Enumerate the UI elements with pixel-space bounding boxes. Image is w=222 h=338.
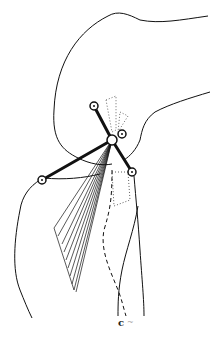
femur-lower-outline xyxy=(124,92,210,160)
tibia-inner-outline xyxy=(103,170,126,316)
muscle-fan xyxy=(54,140,112,292)
pivot-center xyxy=(107,135,117,145)
dotted-cruciate-2 xyxy=(118,112,128,132)
figure-mark: ~ xyxy=(127,318,134,327)
femur-outline xyxy=(54,13,208,165)
figure-label: c xyxy=(118,317,124,328)
diagram-canvas xyxy=(0,0,222,338)
lever-bars xyxy=(42,106,132,180)
fibula-outline xyxy=(134,176,144,316)
dotted-cruciate xyxy=(106,96,116,132)
tibia-left-outline xyxy=(15,180,40,318)
dotted-ligament xyxy=(112,172,130,206)
